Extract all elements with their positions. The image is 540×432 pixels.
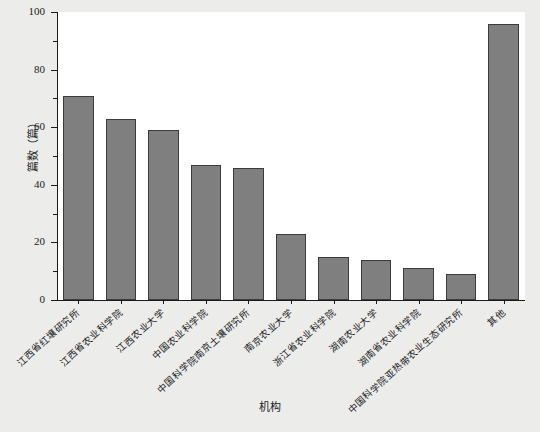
y-axis-title: 篇数（篇）: [24, 84, 40, 204]
x-axis-title: 机构: [0, 398, 540, 414]
bar-chart-figure: 020406080100 江西省红壤研究所江西省农业科学院江西农业大学中国农业科…: [0, 0, 540, 432]
x-axis-category-labels: 江西省红壤研究所江西省农业科学院江西农业大学中国农业科学院中国科学院南京土壤研究…: [0, 0, 540, 432]
